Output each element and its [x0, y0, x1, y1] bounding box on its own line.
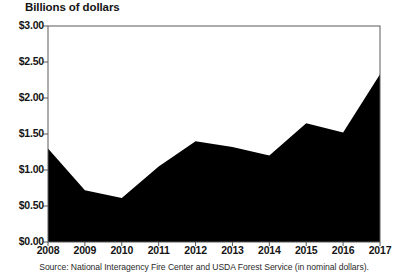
chart-title: Billions of dollars [25, 1, 120, 13]
area-chart-svg [0, 16, 408, 248]
x-tick-label: 2014 [249, 244, 289, 256]
y-tick-label: $2.50 [0, 55, 44, 67]
x-tick-label: 2009 [65, 244, 105, 256]
y-tick-label: $1.50 [0, 127, 44, 139]
x-axis-labels: 2008200920102011201220132014201520162017 [0, 244, 408, 260]
x-tick-label: 2008 [28, 244, 68, 256]
x-tick-label: 2013 [212, 244, 252, 256]
y-tick-label: $2.00 [0, 91, 44, 103]
chart-figure: Billions of dollars $0.00$0.50$1.00$1.50… [0, 0, 408, 280]
y-tick-label: $1.00 [0, 163, 44, 175]
x-tick-label: 2016 [323, 244, 363, 256]
plot-area: $0.00$0.50$1.00$1.50$2.00$2.50$3.00 [0, 16, 408, 248]
x-tick-label: 2011 [139, 244, 179, 256]
source-note: Source: National Interagency Fire Center… [0, 262, 408, 272]
x-tick-label: 2017 [360, 244, 400, 256]
x-tick-label: 2010 [102, 244, 142, 256]
x-tick-label: 2015 [286, 244, 326, 256]
y-tick-label: $0.50 [0, 199, 44, 211]
x-tick-label: 2012 [176, 244, 216, 256]
y-tick-label: $3.00 [0, 19, 44, 31]
